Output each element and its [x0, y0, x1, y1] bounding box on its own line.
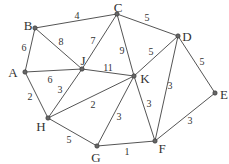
edge-weight-label: 5 — [200, 57, 205, 67]
node-label: D — [182, 30, 191, 43]
edge-g-k — [97, 76, 134, 146]
node-label: C — [114, 1, 123, 14]
edge-weight-label: 3 — [188, 116, 193, 126]
edge-c-j — [82, 14, 117, 69]
edge-b-j — [35, 28, 82, 69]
node-label: K — [140, 72, 149, 85]
edge-weight-label: 3 — [58, 85, 63, 95]
edge-weight-label: 7 — [91, 36, 96, 46]
node-label: B — [24, 19, 33, 32]
edge-weight-label: 8 — [59, 37, 64, 47]
edge-weight-label: 11 — [103, 63, 113, 73]
edge-k-f — [134, 76, 155, 141]
edge-weight-label: 5 — [149, 47, 154, 57]
node-h — [46, 116, 50, 120]
edge-weight-label: 6 — [48, 75, 53, 85]
node-label: J — [80, 54, 85, 67]
edge-weight-label: 2 — [28, 92, 33, 102]
edge-weight-label: 3 — [168, 81, 173, 91]
node-label: H — [36, 120, 45, 133]
node-d — [176, 34, 180, 38]
edge-d-e — [178, 36, 215, 93]
graph-canvas — [0, 0, 229, 164]
node-label: E — [220, 88, 228, 101]
edge-weight-label: 9 — [120, 46, 125, 56]
edge-weight-label: 3 — [117, 112, 122, 122]
edge-a-j — [25, 69, 82, 72]
node-g — [95, 144, 99, 148]
edge-weight-label: 3 — [147, 99, 152, 109]
edge-weight-label: 6 — [22, 43, 27, 53]
edge-weight-label: 5 — [145, 13, 150, 23]
edge-h-g — [48, 118, 97, 146]
edge-weight-label: 5 — [67, 135, 72, 145]
node-label: A — [8, 66, 17, 79]
edge-weight-label: 2 — [91, 100, 96, 110]
node-b — [33, 26, 37, 30]
edge-b-a — [25, 28, 35, 72]
node-e — [213, 91, 217, 95]
node-a — [23, 70, 27, 74]
edge-weight-label: 4 — [75, 11, 80, 21]
edge-h-j — [48, 69, 82, 118]
node-label: G — [91, 151, 100, 164]
node-f — [153, 139, 157, 143]
node-k — [132, 74, 136, 78]
edge-weight-label: 1 — [125, 147, 130, 157]
node-label: F — [158, 142, 165, 155]
